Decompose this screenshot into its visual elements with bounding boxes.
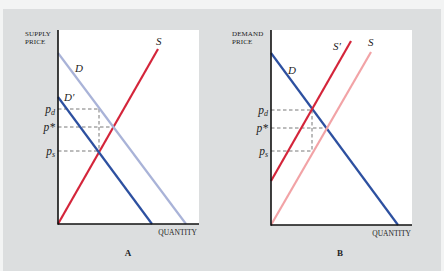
demand-curve-d-label: D <box>287 64 296 76</box>
panel-letter: A <box>125 248 132 258</box>
demand-curve-d-label: D <box>74 62 83 74</box>
tax-incidence-figure: SDD′SUPPLYPRICEQUANTITYpdp*psA DS′SDEMAN… <box>0 0 444 271</box>
supply-curve-s-label: S <box>156 35 162 47</box>
x-axis-title: QUANTITY <box>372 229 411 238</box>
y-axis-title: PRICE <box>232 38 252 46</box>
demand-curve-d-prime-label: D′ <box>63 91 75 103</box>
supply-curve-s-prime-label: S′ <box>333 40 342 52</box>
supply-curve-s-label: S <box>368 36 374 48</box>
y-axis-title: PRICE <box>25 38 45 46</box>
price-p-star-label: p* <box>256 122 269 135</box>
panel-letter: B <box>337 248 343 258</box>
x-axis-title: QUANTITY <box>158 228 197 237</box>
price-p-star-label: p* <box>43 121 56 134</box>
